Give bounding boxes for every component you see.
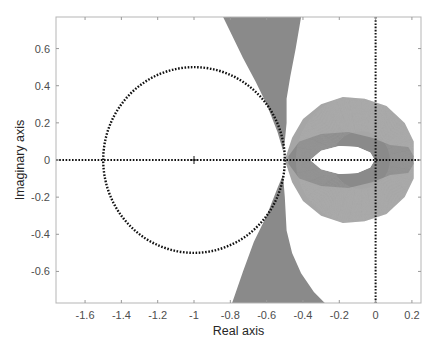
x-tick-label: -1.6 [76,309,95,321]
y-tick-label: 0.4 [35,80,50,92]
x-tick-label: -0.6 [257,309,276,321]
y-tick-label: -0.2 [31,191,50,203]
y-tick-label: -0.6 [31,265,50,277]
x-tick-label: -0.8 [221,309,240,321]
y-axis-label: Imaginary axis [13,120,27,201]
x-axis-label: Real axis [213,324,264,338]
x-tick-label: -1.4 [112,309,131,321]
x-tick-label: -0.2 [330,309,349,321]
nyquist-chart: -1.6-1.4-1.2-1-0.8-0.6-0.4-0.200.2 -0.6-… [0,0,436,351]
x-tick-label: 0.2 [404,309,419,321]
y-tick-label: 0 [44,154,50,166]
x-tick-label: 0 [373,309,379,321]
y-tick-label: -0.4 [31,228,50,240]
y-tick-label: 0.6 [35,43,50,55]
x-tick-label: -1 [189,309,199,321]
x-tick-label: -0.4 [293,309,312,321]
x-tick-label: -1.2 [148,309,167,321]
y-tick-label: 0.2 [35,117,50,129]
